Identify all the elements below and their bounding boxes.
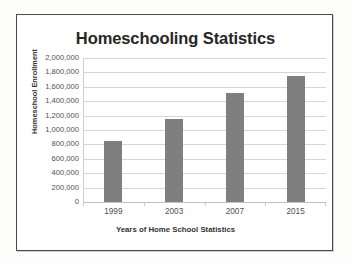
x-axis-tick-label: 2003	[144, 207, 204, 216]
x-axis-tickmark	[325, 202, 326, 206]
y-axis-tick-label: 800,000	[23, 139, 79, 148]
bar	[226, 93, 244, 202]
gridline	[83, 58, 326, 59]
x-axis-tickmark	[265, 202, 266, 206]
y-axis-tick-label: 400,000	[23, 168, 79, 177]
x-axis-tick-label: 2015	[266, 207, 326, 216]
y-axis-tick-label: 1,200,000	[23, 111, 79, 120]
x-axis-tickmark	[83, 202, 84, 206]
bar	[165, 119, 183, 202]
y-axis-tick-label: 2,000,000	[23, 53, 79, 62]
y-axis-tick-labels: 2,000,0001,800,0001,600,0001,400,0001,20…	[21, 58, 79, 202]
y-axis-tick-label: 0	[23, 197, 79, 206]
gridline	[83, 72, 326, 73]
plot-area	[83, 58, 326, 202]
x-axis-tick-label: 1999	[83, 207, 143, 216]
x-axis-tick-label: 2007	[205, 207, 265, 216]
x-axis-tick-labels: 1999200320072015	[83, 207, 326, 221]
x-axis-tickmark	[144, 202, 145, 206]
y-axis-tick-label: 200,000	[23, 183, 79, 192]
chart-title: Homeschooling Statistics	[17, 29, 334, 48]
x-axis-tickmark	[205, 202, 206, 206]
bar	[287, 76, 305, 202]
y-axis-tick-label: 1,000,000	[23, 125, 79, 134]
screenshot-root: Homeschooling Statistics Homeschool Enro…	[0, 0, 352, 265]
x-axis-title: Years of Home School Statistics	[17, 225, 334, 234]
bar	[104, 141, 122, 202]
y-axis-tick-label: 1,800,000	[23, 67, 79, 76]
y-axis-tick-label: 1,600,000	[23, 82, 79, 91]
y-axis-tick-label: 1,400,000	[23, 96, 79, 105]
chart-figure-frame: Homeschooling Statistics Homeschool Enro…	[16, 14, 333, 251]
y-axis-tick-label: 600,000	[23, 154, 79, 163]
